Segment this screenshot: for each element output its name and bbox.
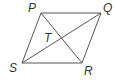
vertex-label-r: R <box>84 64 93 78</box>
vertex-label-p: P <box>28 1 36 15</box>
parallelogram-diagram: P Q R S T <box>0 0 116 80</box>
vertex-label-s: S <box>9 61 17 75</box>
intersection-label-t: T <box>44 31 53 45</box>
vertex-label-q: Q <box>103 1 112 15</box>
diagonal-qs <box>22 13 101 63</box>
